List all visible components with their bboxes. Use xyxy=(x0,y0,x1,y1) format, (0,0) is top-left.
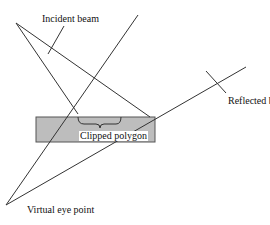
reflection-clipping-diagram: Incident beam Reflected beam Clipped pol… xyxy=(0,0,270,225)
incident-ray-right xyxy=(16,23,150,117)
virtual-eye-point-label: Virtual eye point xyxy=(27,205,94,215)
clipped-polygon-label: Clipped polygon xyxy=(79,131,148,141)
incident-beam-label: Incident beam xyxy=(42,14,99,24)
reflected-beam-label: Reflected beam xyxy=(228,96,270,106)
virtual-ray-left xyxy=(6,15,138,205)
reflected-label-pointer xyxy=(206,71,226,93)
incident-label-pointer xyxy=(48,26,64,54)
diagram-canvas xyxy=(0,0,270,225)
incident-ray-left xyxy=(16,23,78,114)
